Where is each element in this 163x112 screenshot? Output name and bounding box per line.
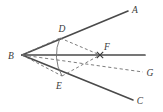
point-label-B: B [8, 51, 14, 61]
point-label-G: G [147, 68, 154, 78]
point-label-F: F [103, 42, 110, 52]
segment-D-to-F [60, 38, 100, 55]
point-label-E: E [55, 81, 62, 91]
point-label-D: D [58, 24, 66, 34]
point-label-A: A [131, 5, 138, 15]
geometry-figure: B A C D E F G [0, 0, 163, 112]
ray-B-to-A [22, 11, 128, 55]
ray-B-to-G [22, 55, 143, 72]
ray-B-to-C [22, 55, 133, 100]
point-label-C: C [137, 96, 144, 106]
segment-E-to-F [62, 55, 100, 76]
